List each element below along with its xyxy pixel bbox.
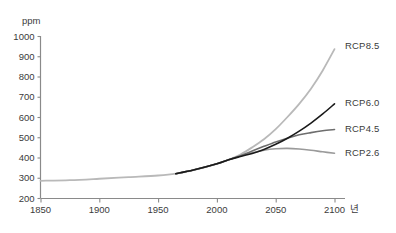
x-axis-unit-label: 년 (350, 203, 359, 214)
y-axis-tick-label: 500 (19, 132, 35, 143)
x-axis-tick-label: 2000 (206, 204, 227, 215)
co2-concentration-chart: 2003004005006007008009001000 18501900195… (0, 0, 396, 233)
x-axis-ticks (41, 199, 335, 203)
series-line-rcp85 (41, 49, 335, 181)
y-axis-tick-label: 1000 (13, 31, 34, 42)
legend-label-rcp26: RCP2.6 (345, 147, 379, 158)
series-lines-group (41, 49, 335, 181)
series-line-rcp60 (176, 104, 335, 174)
y-axis-tick-label: 300 (19, 172, 35, 183)
legend-label-rcp85: RCP8.5 (345, 40, 379, 51)
x-axis-tick-label: 1950 (148, 204, 169, 215)
legend-label-rcp60: RCP6.0 (345, 97, 379, 108)
y-axis-tick-label: 800 (19, 71, 35, 82)
y-axis-tick-label: 600 (19, 112, 35, 123)
x-axis-tick-label: 2100 (324, 204, 345, 215)
y-axis-tick-label: 900 (19, 51, 35, 62)
y-axis-group: 2003004005006007008009001000 (13, 31, 40, 204)
x-axis-tick-label: 1900 (89, 204, 110, 215)
legend-label-rcp45: RCP4.5 (345, 123, 379, 134)
chart-plot-area: 2003004005006007008009001000 18501900195… (0, 0, 396, 233)
y-axis-tick-labels: 2003004005006007008009001000 (13, 31, 34, 204)
y-axis-tick-label: 700 (19, 91, 35, 102)
x-axis-tick-label: 2050 (265, 204, 286, 215)
x-axis-group: 185019001950200020502100 (30, 199, 345, 216)
x-axis-tick-label: 1850 (30, 204, 51, 215)
y-axis-tick-label: 200 (19, 193, 35, 204)
x-axis-tick-labels: 185019001950200020502100 (30, 204, 345, 215)
y-axis-tick-label: 400 (19, 152, 35, 163)
y-axis-unit-label: ppm (22, 15, 41, 26)
